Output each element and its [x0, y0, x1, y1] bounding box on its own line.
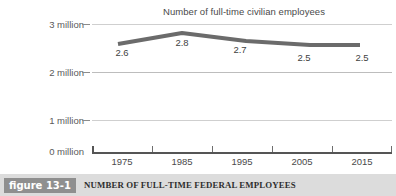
- x-tick-label-2005: 2005: [279, 156, 325, 167]
- figure-caption-bar: figure 13-1 NUMBER OF FULL-TIME FEDERAL …: [0, 174, 396, 196]
- data-label-1985: 2.8: [162, 37, 202, 48]
- figure-number-badge: figure 13-1: [4, 178, 76, 193]
- x-tick-mark-1: [152, 146, 153, 152]
- x-axis-left-stub: [92, 146, 94, 153]
- x-tick-mark-2: [212, 146, 213, 152]
- x-tick-label-1975: 1975: [99, 156, 145, 167]
- chart-plot-area: Number of full-time civilian employees 3…: [0, 0, 396, 172]
- data-label-1975: 2.6: [102, 47, 142, 58]
- x-axis-line: [92, 152, 392, 154]
- x-tick-label-2015: 2015: [339, 156, 385, 167]
- x-tick-mark-4: [332, 146, 333, 152]
- x-tick-label-1995: 1995: [219, 156, 265, 167]
- data-label-2015: 2.5: [342, 52, 382, 63]
- x-tick-mark-5: [391, 146, 392, 152]
- x-tick-mark-3: [272, 146, 273, 152]
- data-label-1995: 2.7: [220, 44, 260, 55]
- x-tick-label-1985: 1985: [159, 156, 205, 167]
- series-line: [0, 0, 396, 172]
- figure-caption-text: NUMBER OF FULL-TIME FEDERAL EMPLOYEES: [84, 180, 296, 190]
- data-label-2005: 2.5: [284, 52, 324, 63]
- figure-container: Number of full-time civilian employees 3…: [0, 0, 396, 196]
